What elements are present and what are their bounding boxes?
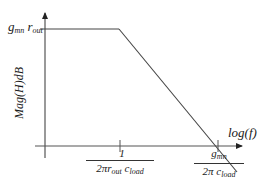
ugf-denominator: 2π cload — [194, 165, 244, 181]
ugf-fraction-bar — [194, 163, 244, 164]
ugf-den-main: 2π c — [203, 165, 222, 177]
gain-symbol-r: r — [24, 19, 32, 34]
pole-fraction-bar — [86, 160, 154, 161]
unity-gain-frequency-label: gmn 2π cload — [194, 148, 244, 181]
gain-sub-mn: mn — [15, 26, 25, 35]
pole-numerator: 1 — [86, 148, 154, 159]
plateau-gain-label: gmn rout — [8, 20, 43, 35]
ugf-numerator: gmn — [194, 148, 244, 162]
pole-den-sub-out: out — [112, 167, 122, 176]
pole-denominator: 2πrout cload — [86, 162, 154, 178]
pole-den-sub-load: load — [129, 167, 143, 176]
ugf-den-sub-load: load — [221, 170, 235, 179]
gain-sub-out: out — [33, 26, 43, 35]
pole-frequency-label: 1 2πrout cload — [86, 148, 154, 178]
pole-den-main: 2πr — [96, 162, 111, 174]
x-axis-label: log(f) — [228, 126, 257, 139]
y-axis-label: Mag(H)dB — [12, 48, 26, 138]
ugf-num-sub-mn: mn — [217, 152, 227, 161]
